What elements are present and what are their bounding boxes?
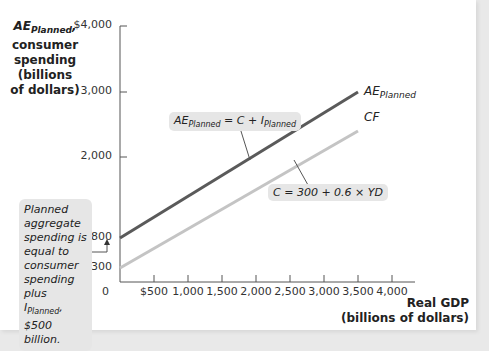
ae-equation-callout: AEPlanned = C + IPlanned [169,112,301,131]
ae-planned-line-label: AEPlanned [364,84,416,100]
x-axis-label: Real GDP (billions of dollars) [341,296,469,326]
y-axis-label: AEPlanned, consumer spending (billions o… [10,19,80,98]
y-tick-4000: $4,000 [72,18,112,31]
y-tick-2000: 2,000 [72,149,112,162]
cf-line-label: CF [364,110,379,124]
consumption-function-callout: C = 300 + 0.6 × YD [268,184,388,201]
planned-spending-note: Planned aggregate spending is equal to c… [19,199,92,351]
y-tick-3000: 3,000 [72,84,112,97]
